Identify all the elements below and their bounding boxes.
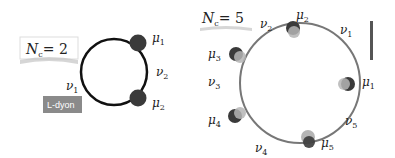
label-nu2-left: ν2 xyxy=(156,65,168,81)
left-panel: Nc= 2 μ1 μ2 ν2 ν1 L-dyon xyxy=(20,31,168,113)
label-nu4-right: ν4 xyxy=(255,141,267,157)
label-mu4-right: μ4 xyxy=(208,113,221,129)
label-mu5-right: μ5 xyxy=(321,136,334,152)
label-mu2-left: μ2 xyxy=(152,96,165,112)
label-mu3-right: μ3 xyxy=(208,47,221,63)
dot-mu2-right-light xyxy=(288,26,300,38)
label-mu1-right: μ1 xyxy=(362,75,375,91)
label-mu2-right: μ2 xyxy=(296,8,309,24)
dot-mu2-left xyxy=(130,90,147,107)
label-mu1-left: μ1 xyxy=(152,31,165,47)
right-panel: Nc= 5 μ2 μ1 μ3 μ4 μ5 ν1 ν2 ν3 ν4 ν5 xyxy=(200,8,375,157)
vertical-bar xyxy=(370,21,373,60)
label-nu1-right: ν1 xyxy=(340,23,352,39)
label-nu3-right: ν3 xyxy=(208,75,220,91)
dot-mu4-right-light xyxy=(234,107,246,119)
label-nu1-left: ν1 xyxy=(66,79,78,95)
nc-label-right: Nc= 5 xyxy=(201,10,244,28)
dot-mu3-right-light xyxy=(234,51,246,63)
dot-mu1-right-light xyxy=(338,78,350,90)
dot-mu1-left xyxy=(130,35,147,52)
diagram: Nc= 2 μ1 μ2 ν2 ν1 L-dyon Nc= 5 μ2 μ1 μ3 xyxy=(0,0,395,158)
l-dyon-label: L-dyon xyxy=(47,100,75,110)
label-nu2-right: ν2 xyxy=(260,17,272,33)
label-nu5-right: ν5 xyxy=(345,114,357,130)
dot-mu5-right-dark xyxy=(303,136,315,148)
nc-label-left: Nc= 2 xyxy=(25,41,68,59)
